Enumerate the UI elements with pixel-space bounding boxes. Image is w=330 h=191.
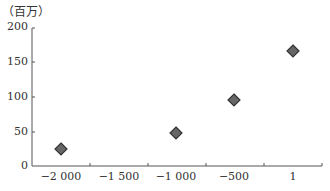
y-tick-label: 0 — [2, 159, 28, 172]
x-axis — [32, 163, 322, 166]
x-tick-label: 1 — [268, 170, 318, 183]
y-tick-label: 100 — [2, 90, 28, 103]
data-point — [228, 94, 240, 106]
data-point — [287, 45, 299, 57]
x-tick-label: −2 000 — [36, 170, 86, 183]
data-points — [55, 45, 299, 155]
y-tick-label: 200 — [2, 20, 28, 33]
y-tick-label: 50 — [2, 125, 28, 138]
x-tick-label: −1 500 — [94, 170, 144, 183]
scatter-plot — [0, 0, 330, 191]
y-tick-label: 150 — [2, 55, 28, 68]
y-axis — [32, 28, 35, 166]
x-tick-label: −1 000 — [151, 170, 201, 183]
data-point — [55, 143, 67, 155]
data-point — [170, 127, 182, 139]
x-tick-label: −500 — [209, 170, 259, 183]
